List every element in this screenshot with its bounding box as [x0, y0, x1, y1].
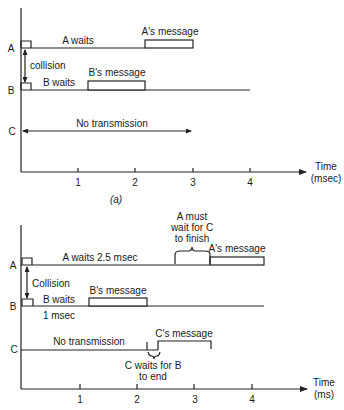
a-must-wait-line1: A must	[177, 211, 208, 222]
station-b-collision-pulse	[21, 83, 31, 90]
station-a-message-label: A's message	[209, 243, 266, 254]
tick-label-1: 1	[75, 177, 81, 188]
tick-label-4: 4	[247, 177, 253, 188]
tick-label-1: 1	[77, 394, 83, 405]
station-b-message-label: B's message	[89, 67, 146, 78]
a-must-wait-line3: to finish	[175, 233, 209, 244]
station-c-message-box	[158, 341, 211, 350]
timing-diagram: 1 2 3 4 Time (msec) A A waits A's messag…	[0, 0, 344, 410]
tick-label-3: 3	[192, 394, 198, 405]
collision-label: collision	[30, 60, 66, 71]
collision-label: Collision	[32, 278, 70, 289]
time-axis-unit: (msec)	[311, 173, 342, 184]
panel-b: 1 2 3 4 Time (ms) A A waits 2.5 msec A's…	[10, 211, 336, 405]
time-axis-label: Time	[313, 377, 335, 388]
station-c-label: C	[8, 126, 15, 137]
station-b-label: B	[10, 301, 17, 312]
tick-label-3: 3	[190, 177, 196, 188]
station-a-label: A	[8, 43, 15, 54]
time-axis-label: Time	[315, 161, 337, 172]
x-ticks	[80, 384, 252, 389]
station-a-label: A	[10, 260, 17, 271]
a-must-wait-line2: wait for C	[170, 222, 213, 233]
station-c-label: C	[10, 344, 17, 355]
panel-a-caption: (a)	[110, 194, 122, 205]
station-b-message-label: B's message	[90, 285, 147, 296]
tick-label-2: 2	[134, 394, 140, 405]
station-c-message-label: C's message	[155, 328, 213, 339]
station-a-message-box	[210, 257, 264, 265]
a-wait-brace-icon	[175, 247, 210, 264]
tick-label-2: 2	[132, 177, 138, 188]
station-b-wait-label: B waits	[43, 77, 75, 88]
c-wait-brace-icon	[148, 352, 160, 359]
station-c-wait-label: No transmission	[53, 336, 125, 347]
station-b-label: B	[8, 85, 15, 96]
station-b-wait-label: B waits	[43, 294, 75, 305]
time-axis-unit: (ms)	[314, 389, 334, 400]
station-a-message-box	[145, 40, 193, 48]
station-a-collision-pulse	[21, 41, 31, 48]
station-b-collision-pulse	[22, 299, 33, 306]
station-b-wait-duration: 1 msec	[43, 310, 75, 321]
c-waits-line1: C waits for B	[125, 360, 182, 371]
station-b-message-box	[88, 81, 145, 90]
panel-a: 1 2 3 4 Time (msec) A A waits A's messag…	[8, 8, 342, 205]
c-waits-line2: to end	[139, 371, 167, 382]
tick-label-4: 4	[249, 394, 255, 405]
station-a-collision-pulse	[22, 258, 32, 265]
station-c-wait-label: No transmission	[76, 118, 148, 129]
station-b-message-box	[89, 298, 147, 306]
station-a-message-label: A's message	[142, 26, 199, 37]
station-a-wait-label: A waits	[62, 35, 94, 46]
station-a-wait-label: A waits 2.5 msec	[62, 252, 137, 263]
